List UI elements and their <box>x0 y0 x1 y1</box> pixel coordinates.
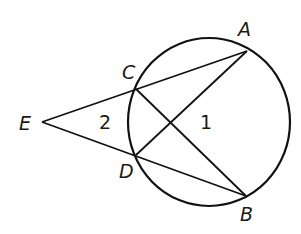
angle-label-1: 1 <box>200 113 212 132</box>
point-label-c: C <box>122 63 135 82</box>
angle-label-2: 2 <box>99 113 111 132</box>
point-label-b: B <box>240 205 253 224</box>
chord-c-b <box>136 89 246 196</box>
chord-a-d <box>136 51 247 155</box>
secant-e-a <box>42 51 247 122</box>
point-label-e: E <box>19 114 31 133</box>
point-label-d: D <box>119 162 134 181</box>
secant-e-b <box>42 122 246 196</box>
geometry-diagram <box>0 0 301 234</box>
point-label-a: A <box>238 20 251 39</box>
